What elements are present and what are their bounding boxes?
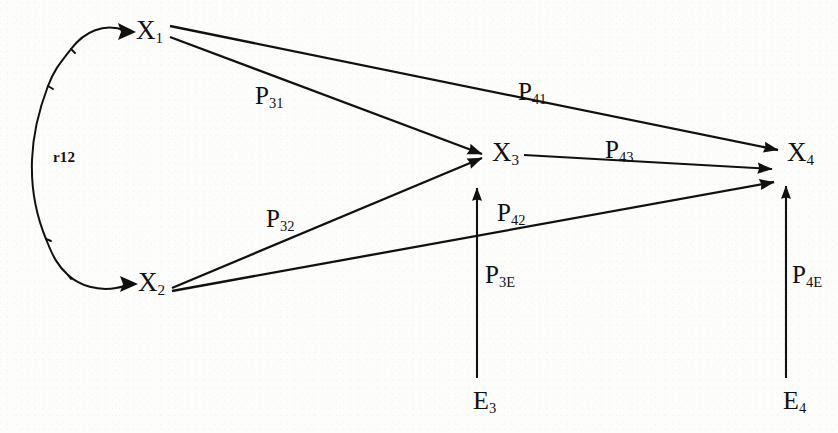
path-label-P42: P42 xyxy=(497,200,525,225)
residual-label-E3: E3 xyxy=(473,388,496,414)
node-label-X2: X2 xyxy=(138,269,165,296)
path-arrow-P31 xyxy=(170,37,482,154)
diagram-canvas xyxy=(0,0,838,433)
path-label-P4E: P4E xyxy=(792,262,822,287)
path-label-P32: P32 xyxy=(266,206,294,231)
path-arrow-P43 xyxy=(524,155,772,169)
path-label-P41: P41 xyxy=(518,79,546,104)
node-label-X4: X4 xyxy=(787,139,814,166)
residual-label-E4: E4 xyxy=(783,388,806,414)
correlation-arc-r12 xyxy=(32,23,138,292)
path-diagram-figure: X1 X2 X3 X4 E3 E4 P31 P41 P32 P42 P43 P3… xyxy=(0,0,838,433)
path-label-P31: P31 xyxy=(255,83,283,108)
node-label-X1: X1 xyxy=(136,17,163,44)
path-arrow-P42 xyxy=(172,182,774,291)
node-label-X3: X3 xyxy=(492,139,519,166)
correlation-label-r12: r12 xyxy=(53,150,75,165)
path-arrow-P32 xyxy=(172,158,482,288)
path-label-P43: P43 xyxy=(605,137,633,162)
path-label-P3E: P3E xyxy=(485,262,515,287)
